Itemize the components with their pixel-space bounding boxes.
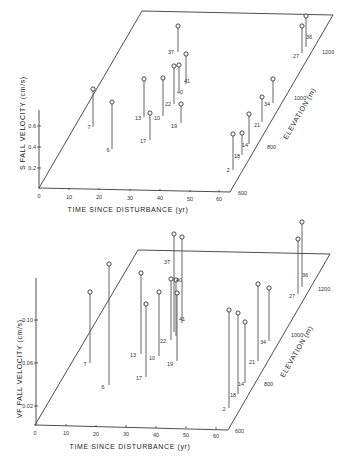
site-label: 27 <box>293 53 299 59</box>
x-tick-label: 50 <box>187 196 193 202</box>
site-label: 19 <box>167 361 173 367</box>
site-label: 10 <box>149 355 155 361</box>
elevation-tick-label: 1200 <box>322 49 334 55</box>
stem-marker-circle <box>227 308 231 312</box>
stem-marker-circle <box>110 100 114 104</box>
x-tick-label: 10 <box>63 430 69 436</box>
stem-marker-circle <box>169 277 173 281</box>
stem-marker-circle <box>300 24 304 28</box>
elevation-tick-label: 600 <box>235 428 244 434</box>
stem-marker-circle <box>180 235 184 239</box>
figure: 01020304050600.20.40.660080010001200 761… <box>0 0 345 465</box>
site-label: 17 <box>140 138 146 144</box>
site-label: 6 <box>106 147 109 153</box>
site-label: 2 <box>222 406 225 412</box>
top-base-plane <box>39 11 333 192</box>
stem-marker-circle <box>247 112 251 116</box>
stem-marker-circle <box>88 290 92 294</box>
site-label: 34 <box>264 101 270 107</box>
stem-marker-circle <box>231 132 235 136</box>
site-label: 14 <box>242 142 248 148</box>
bottom-stems: 7613171022401937412181421342736 <box>83 220 308 412</box>
x-tick-label: 60 <box>216 196 222 202</box>
z-tick-label: 0.2 <box>28 165 36 171</box>
stem-marker-circle <box>177 63 181 67</box>
bottom-panel: 01020304050600.020.060.1060080010001200 … <box>16 220 330 451</box>
x-tick-label: 40 <box>153 432 159 438</box>
site-label: 34 <box>260 339 266 345</box>
x-tick-label: 0 <box>37 193 40 199</box>
site-label: 21 <box>249 359 255 365</box>
z-tick-label: 0.02 <box>22 403 33 409</box>
site-label: 36 <box>302 272 308 278</box>
stem-marker-circle <box>296 237 300 241</box>
stem-marker-circle <box>184 52 188 56</box>
stem-marker-circle <box>260 95 264 99</box>
stem-marker-circle <box>139 271 143 275</box>
stem-marker-circle <box>107 262 111 266</box>
site-label: 40 <box>177 89 183 95</box>
stem-marker-circle <box>172 64 176 68</box>
site-label: 37 <box>168 49 174 55</box>
site-label: 21 <box>254 122 260 128</box>
top-z-axis-title: S FALL VELOCITY (cm/s) <box>19 76 27 170</box>
stem-marker-circle <box>142 77 146 81</box>
stem-marker-circle <box>236 311 240 315</box>
site-label: 6 <box>101 384 104 390</box>
x-tick-label: 30 <box>123 431 129 437</box>
stem-marker-circle <box>148 111 152 115</box>
x-tick-label: 20 <box>96 194 102 200</box>
x-tick-label: 40 <box>157 195 163 201</box>
z-tick-label: 0.06 <box>22 360 33 366</box>
stem-marker-circle <box>157 290 161 294</box>
z-tick-label: 0.4 <box>28 144 36 150</box>
bottom-base-plane <box>35 250 330 430</box>
site-label: 41 <box>184 78 190 84</box>
x-tick-label: 20 <box>93 431 99 437</box>
x-tick-label: 10 <box>66 194 72 200</box>
stem-marker-circle <box>304 14 308 18</box>
stem-marker-circle <box>172 232 176 236</box>
stem-marker-circle <box>256 282 260 286</box>
site-label: 13 <box>135 115 141 121</box>
x-tick-label: 0 <box>33 430 36 436</box>
stem-marker-circle <box>300 220 304 224</box>
z-tick-label: 0.6 <box>28 123 36 129</box>
stem-marker-circle <box>240 131 244 135</box>
site-label: 27 <box>289 293 295 299</box>
top-panel: 01020304050600.20.40.660080010001200 761… <box>19 11 334 214</box>
site-label: 19 <box>171 123 177 129</box>
stem-plot-figure: 01020304050600.20.40.660080010001200 761… <box>0 0 345 465</box>
site-label: 22 <box>165 101 171 107</box>
bottom-z-axis-title: VF FALL VELOCITY (cm/s) <box>16 319 24 418</box>
stem-marker-circle <box>179 102 183 106</box>
site-label: 37 <box>164 259 170 265</box>
x-tick-label: 60 <box>213 433 219 439</box>
elevation-tick-label: 1200 <box>318 286 330 292</box>
site-label: 18 <box>230 392 236 398</box>
site-label: 13 <box>130 352 136 358</box>
site-label: 14 <box>238 381 244 387</box>
site-label: 10 <box>154 115 160 121</box>
site-label: 17 <box>136 375 142 381</box>
stem-marker-circle <box>144 302 148 306</box>
top-stems: 7613171022401937412181421342736 <box>87 14 312 173</box>
stem-marker-circle <box>271 77 275 81</box>
site-label: 40 <box>176 277 182 283</box>
bottom-x-axis-title: TIME SINCE DISTURBANCE (yr) <box>70 443 191 451</box>
elevation-tick-label: 800 <box>267 144 276 150</box>
site-label: 18 <box>234 153 240 159</box>
x-tick-label: 30 <box>127 195 133 201</box>
z-tick-label: 0.10 <box>22 317 33 323</box>
site-label: 2 <box>226 167 229 173</box>
top-x-axis-title: TIME SINCE DISTURBANCE (yr) <box>68 206 189 214</box>
x-tick-label: 50 <box>183 432 189 438</box>
site-label: 7 <box>87 124 90 130</box>
site-label: 7 <box>83 361 86 367</box>
elevation-tick-label: 800 <box>264 381 273 387</box>
site-label: 41 <box>179 316 185 322</box>
stem-marker-circle <box>267 286 271 290</box>
stem-marker-circle <box>161 76 165 80</box>
elevation-tick-label: 600 <box>238 190 247 196</box>
stem-marker-circle <box>176 24 180 28</box>
